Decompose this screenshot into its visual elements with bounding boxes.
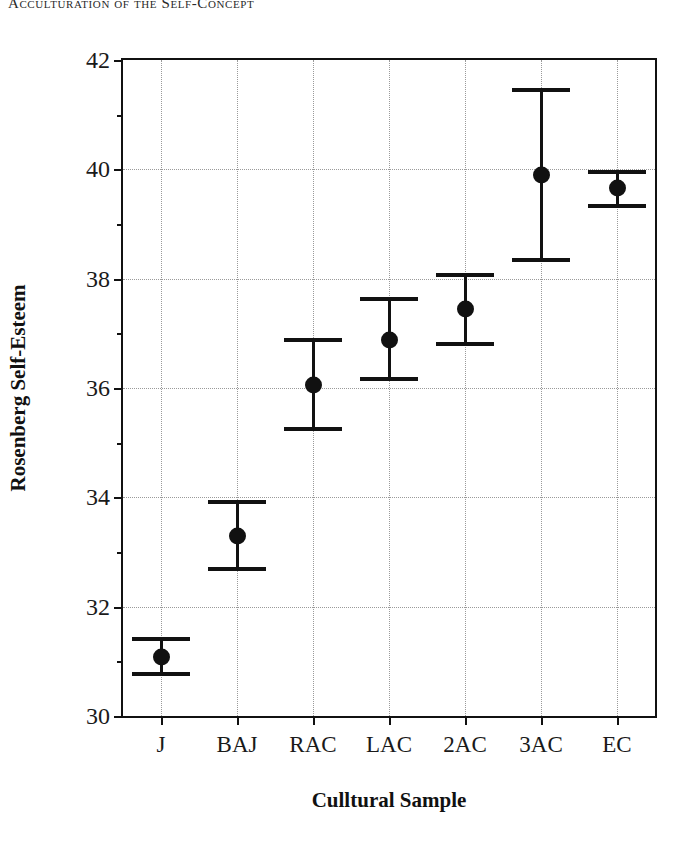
errorbar-cap-upper <box>360 297 418 301</box>
y-axis-tick-label: 42 <box>86 47 110 74</box>
x-gridline <box>161 60 162 716</box>
x-axis-tick <box>389 716 391 725</box>
data-point-marker <box>533 166 550 183</box>
x-axis-tick-label: LAC <box>366 732 412 758</box>
data-point-marker <box>153 648 170 665</box>
data-point-marker <box>457 300 474 317</box>
x-axis-tick <box>617 716 619 725</box>
errorbar-cap-lower <box>208 567 266 571</box>
x-axis-tick-label: BAJ <box>217 732 258 758</box>
y-axis-minor-tick <box>117 552 123 554</box>
errorbar-cap-lower <box>360 377 418 381</box>
data-point-marker <box>609 180 626 197</box>
chart-figure: Rosenberg Self-Esteem 30323436384042JBAJ… <box>0 0 693 841</box>
figure-page: Acculturation of the Self-Concept Rosenb… <box>0 0 693 841</box>
y-axis-minor-tick <box>117 115 123 117</box>
y-axis-minor-tick <box>117 333 123 335</box>
errorbar-cap-upper <box>512 88 570 92</box>
y-axis-title: Rosenberg Self-Esteem <box>6 284 31 491</box>
y-axis-tick <box>114 388 123 390</box>
x-gridline <box>617 60 618 716</box>
x-axis-tick <box>237 716 239 725</box>
y-axis-tick <box>114 60 123 62</box>
y-axis-tick-label: 34 <box>86 484 110 511</box>
errorbar-cap-lower <box>436 342 494 346</box>
errorbar-cap-lower <box>512 258 570 262</box>
errorbar-cap-lower <box>588 204 646 208</box>
y-axis-tick-label: 40 <box>86 156 110 183</box>
x-axis-tick-label: RAC <box>289 732 336 758</box>
y-axis-minor-tick <box>117 443 123 445</box>
errorbar-cap-upper <box>588 170 646 174</box>
x-axis-tick-label: 2AC <box>443 732 486 758</box>
x-axis-tick <box>313 716 315 725</box>
x-axis-tick-label: J <box>157 732 166 758</box>
y-axis-tick-label: 38 <box>86 265 110 292</box>
errorbar-cap-upper <box>436 273 494 277</box>
y-axis-minor-tick <box>117 661 123 663</box>
x-gridline <box>389 60 390 716</box>
y-axis-tick-label: 30 <box>86 703 110 730</box>
x-gridline <box>237 60 238 716</box>
errorbar-cap-lower <box>284 427 342 431</box>
data-point-marker <box>381 331 398 348</box>
errorbar-cap-upper <box>208 500 266 504</box>
y-axis-tick <box>114 169 123 171</box>
y-axis-minor-tick <box>117 224 123 226</box>
plot-inner: 30323436384042JBAJRACLAC2AC3ACEC <box>123 60 655 716</box>
y-axis-tick <box>114 607 123 609</box>
y-axis-tick-label: 36 <box>86 375 110 402</box>
x-axis-tick-label: EC <box>602 732 631 758</box>
y-axis-tick <box>114 497 123 499</box>
plot-area: 30323436384042JBAJRACLAC2AC3ACEC <box>121 58 657 718</box>
x-axis-tick <box>541 716 543 725</box>
x-axis-tick <box>161 716 163 725</box>
y-axis-tick <box>114 279 123 281</box>
x-axis-title: Culltural Sample <box>312 788 467 813</box>
data-point-marker <box>305 377 322 394</box>
y-axis-tick-label: 32 <box>86 593 110 620</box>
x-gridline <box>465 60 466 716</box>
x-axis-tick-label: 3AC <box>519 732 562 758</box>
errorbar-cap-lower <box>132 672 190 676</box>
errorbar-cap-upper <box>284 338 342 342</box>
x-axis-tick <box>465 716 467 725</box>
y-axis-tick <box>114 716 123 718</box>
errorbar-cap-upper <box>132 637 190 641</box>
data-point-marker <box>229 527 246 544</box>
